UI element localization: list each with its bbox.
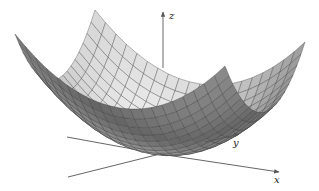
x-axis-line (160, 154, 279, 172)
x-axis-back-line (68, 154, 160, 177)
y-axis-label: y (232, 137, 239, 148)
z-axis-label: z (168, 10, 175, 21)
surface-patch (15, 34, 30, 56)
x-axis-label: x (274, 174, 280, 185)
paraboloid-figure: x y z (0, 0, 319, 191)
paraboloid-surface (15, 10, 305, 156)
